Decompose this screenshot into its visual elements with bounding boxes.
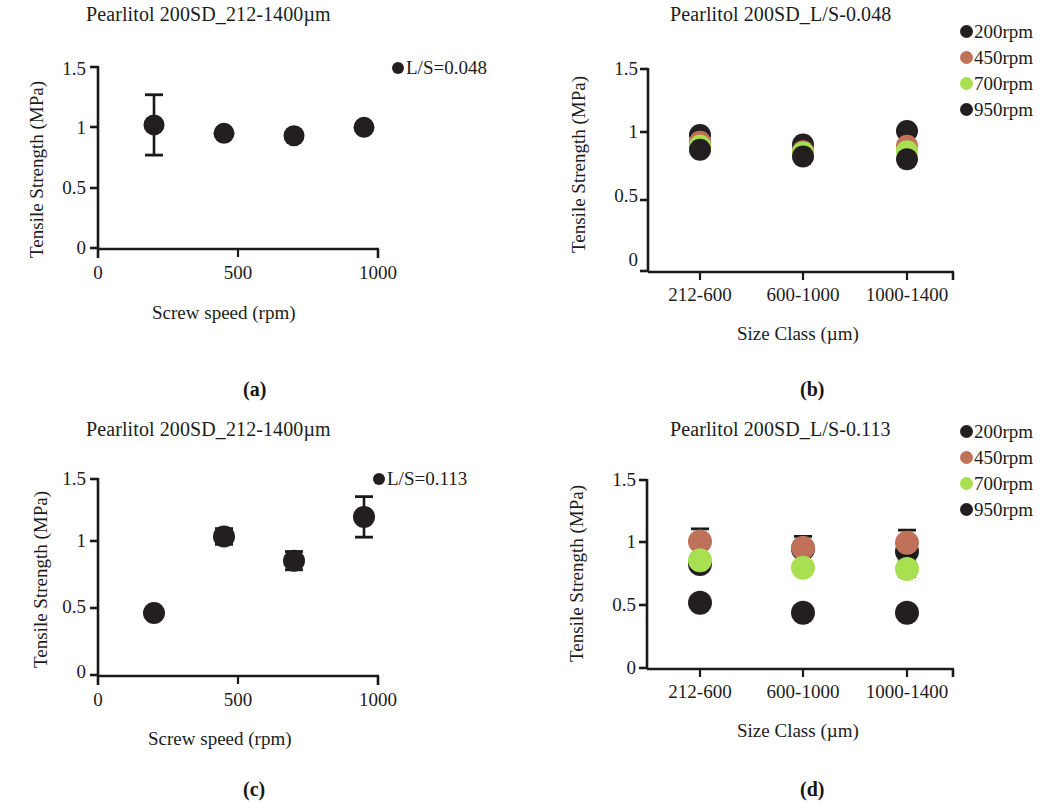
panel-c-xtick-1000: 1000	[343, 689, 413, 711]
panel-a-data-points	[144, 95, 375, 155]
panel-c-caption: (c)	[243, 778, 265, 801]
figure-root: Pearlitol 200SD_212-1400µm Tensile Stren…	[0, 0, 1061, 811]
data-point-marker	[688, 591, 712, 615]
panel-c-data-points	[143, 497, 375, 624]
data-point-marker	[895, 601, 919, 625]
panel-b-xtick-212-600: 212-600	[645, 284, 755, 306]
panel-d-legend-item-950rpm: 950rpm	[960, 496, 1033, 522]
panel-d-xtick-212-600: 212-600	[645, 681, 755, 703]
panel-b-legend-label-950rpm: 950rpm	[974, 100, 1033, 119]
panel-b-caption: (b)	[800, 378, 824, 401]
panel-b-legend-marker-450rpm-icon	[960, 51, 973, 64]
panel-d: Pearlitol 200SD_L/S-0.113 Tensile Streng…	[530, 410, 1061, 811]
panel-a-caption: (a)	[243, 378, 266, 401]
panel-c: Pearlitol 200SD_212-1400µm Tensile Stren…	[0, 410, 530, 811]
panel-c-x-axis-title: Screw speed (rpm)	[148, 728, 292, 750]
data-point-marker	[283, 550, 305, 572]
data-point-marker	[144, 114, 165, 135]
panel-d-legend-item-200rpm: 200rpm	[960, 418, 1033, 444]
data-point-marker	[895, 531, 919, 555]
panel-b-legend-item-450rpm: 450rpm	[960, 44, 1033, 70]
panel-d-legend-label-450rpm: 450rpm	[974, 448, 1033, 467]
panel-d-x-axis-title: Size Class (µm)	[737, 720, 859, 742]
panel-a-xtick-500: 500	[208, 262, 268, 284]
panel-b-legend-marker-200rpm-icon	[960, 25, 973, 38]
panel-d-legend-item-450rpm: 450rpm	[960, 444, 1033, 470]
data-point-marker	[895, 557, 919, 581]
panel-c-axes	[90, 478, 379, 685]
data-point-marker	[214, 123, 235, 144]
panel-b-data-points	[689, 120, 918, 170]
panel-d-legend-label-950rpm: 950rpm	[974, 500, 1033, 519]
panel-b: Pearlitol 200SD_L/S-0.048 Tensile Streng…	[530, 0, 1061, 410]
panel-d-legend-marker-700rpm-icon	[960, 477, 973, 490]
data-point-marker	[353, 506, 375, 528]
panel-b-legend-label-450rpm: 450rpm	[974, 48, 1033, 67]
data-point-marker	[354, 117, 375, 138]
data-point-marker	[791, 556, 815, 580]
panel-b-axes	[640, 68, 954, 280]
data-point-marker	[213, 525, 235, 547]
panel-a-xtick-1000: 1000	[343, 262, 413, 284]
panel-d-xtick-1000-1400: 1000-1400	[840, 681, 974, 703]
data-point-marker	[284, 125, 305, 146]
panel-b-xtick-1000-1400: 1000-1400	[840, 284, 974, 306]
panel-b-legend-item-950rpm: 950rpm	[960, 96, 1033, 122]
panel-d-legend-label-200rpm: 200rpm	[974, 422, 1033, 441]
panel-d-legend-marker-950rpm-icon	[960, 503, 973, 516]
panel-a-legend-label: L/S=0.048	[406, 58, 487, 77]
data-point-marker	[688, 548, 712, 572]
panel-a-axes	[90, 66, 379, 258]
panel-a-xtick-0: 0	[78, 262, 118, 284]
panel-b-legend-item-700rpm: 700rpm	[960, 70, 1033, 96]
panel-c-legend-label: L/S=0.113	[387, 469, 467, 488]
panel-c-legend: L/S=0.113	[373, 469, 467, 488]
panel-a-legend-marker-icon	[392, 62, 404, 74]
panel-c-xtick-500: 500	[208, 689, 268, 711]
panel-d-legend-marker-450rpm-icon	[960, 451, 973, 464]
panel-b-plot	[530, 0, 970, 300]
data-point-marker	[896, 148, 918, 170]
panel-b-legend-label-200rpm: 200rpm	[974, 22, 1033, 41]
data-point-marker	[792, 146, 814, 168]
panel-d-plot	[530, 410, 970, 710]
panel-a-plot	[0, 0, 420, 300]
panel-c-xtick-0: 0	[78, 689, 118, 711]
data-point-marker	[791, 601, 815, 625]
panel-d-legend-item-700rpm: 700rpm	[960, 470, 1033, 496]
panel-c-legend-marker-icon	[373, 473, 385, 485]
panel-b-legend-marker-950rpm-icon	[960, 103, 973, 116]
panel-d-legend-label-700rpm: 700rpm	[974, 474, 1033, 493]
panel-b-legend-label-700rpm: 700rpm	[974, 74, 1033, 93]
panel-a: Pearlitol 200SD_212-1400µm Tensile Stren…	[0, 0, 530, 410]
panel-d-data-points	[688, 529, 919, 625]
data-point-marker	[143, 602, 165, 624]
data-point-marker	[689, 139, 711, 161]
panel-a-x-axis-title: Screw speed (rpm)	[152, 302, 296, 324]
panel-a-legend: L/S=0.048	[392, 58, 487, 77]
panel-c-plot	[0, 410, 420, 720]
panel-d-caption: (d)	[800, 778, 824, 801]
panel-d-legend: 200rpm 450rpm 700rpm 950rpm	[960, 418, 1033, 522]
panel-d-legend-marker-200rpm-icon	[960, 425, 973, 438]
panel-b-x-axis-title: Size Class (µm)	[737, 323, 859, 345]
panel-b-legend-item-200rpm: 200rpm	[960, 18, 1033, 44]
panel-b-legend: 200rpm 450rpm 700rpm 950rpm	[960, 18, 1033, 122]
panel-b-legend-marker-700rpm-icon	[960, 77, 973, 90]
